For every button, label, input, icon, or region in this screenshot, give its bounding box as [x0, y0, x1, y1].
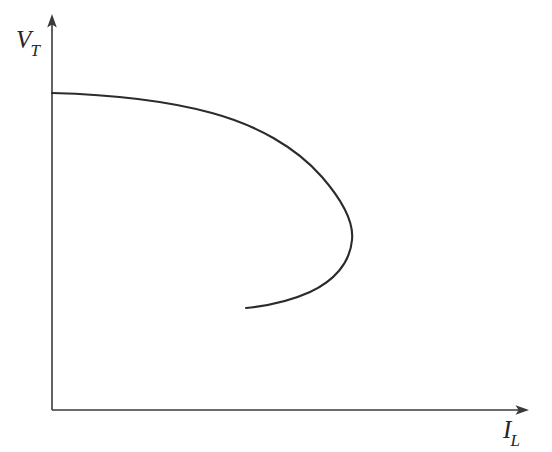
figure-background — [0, 0, 552, 452]
pv-nose-curve-figure: VT IL — [0, 0, 552, 452]
x-axis-label: IL — [503, 416, 521, 447]
y-axis-subscript: T — [30, 41, 39, 60]
x-axis-subscript: L — [511, 431, 520, 450]
y-axis-label: VT — [16, 26, 41, 57]
plot-canvas — [0, 0, 552, 452]
